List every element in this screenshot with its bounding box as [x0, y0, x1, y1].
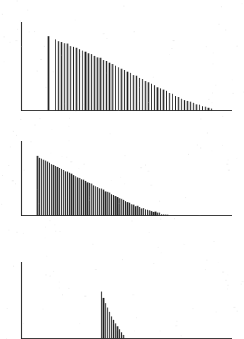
speckle-dot [236, 158, 237, 159]
speckle-dot [49, 220, 50, 221]
speckle-dot [171, 48, 172, 49]
speckle-dot [205, 269, 206, 270]
speckle-dot [40, 59, 42, 60]
speckle-dot [78, 168, 79, 169]
speckle-dot [8, 165, 9, 166]
speckle-dot [116, 330, 117, 331]
speckle-dot [8, 230, 9, 231]
speckle-dot [84, 164, 85, 165]
speckle-dot [207, 133, 208, 134]
speckle-dot [59, 282, 60, 283]
speckle-dot [226, 164, 228, 165]
speckle-dot [69, 140, 70, 141]
speckle-dot [132, 221, 133, 222]
speckle-dot [222, 116, 223, 117]
speckle-dot [13, 266, 14, 267]
panel-3 [21, 262, 232, 339]
speckle-dot [1, 204, 2, 205]
speckle-dot [20, 20, 21, 21]
speckle-dot [4, 36, 5, 37]
speckle-dot [61, 55, 62, 56]
speckle-dot [213, 63, 214, 64]
speckle-dot [147, 171, 149, 172]
speckle-dot [181, 335, 182, 336]
stick-group [49, 36, 212, 110]
speckle-dot [21, 46, 22, 47]
speckle-dot [70, 161, 72, 162]
speckle-dot [149, 232, 150, 233]
speckle-dot [222, 145, 223, 146]
speckle-dot [140, 167, 142, 168]
speckle-dot [46, 256, 47, 257]
speckle-dot [53, 271, 54, 272]
speckle-dot [2, 175, 3, 176]
speckle-dot [23, 233, 24, 234]
speckle-dot [160, 331, 161, 332]
speckle-dot [10, 42, 11, 43]
speckle-dot [51, 129, 52, 130]
speckle-dot [225, 30, 226, 31]
speckle-dot [50, 153, 51, 154]
speckle-dot [134, 31, 135, 32]
speckle-dot [212, 102, 213, 103]
speckle-dot [206, 46, 207, 47]
speckle-dot [89, 200, 90, 201]
speckle-dot [139, 101, 140, 102]
speckle-dot [27, 10, 28, 11]
speckle-dot [106, 38, 107, 39]
speckle-dot [20, 119, 21, 120]
stick-group [38, 156, 168, 216]
speckle-dot [29, 31, 30, 32]
speckle-dot [68, 288, 69, 289]
speckle-dot [15, 40, 17, 41]
speckle-dot [132, 294, 134, 295]
speckle-dot [110, 105, 111, 106]
speckle-dot [55, 231, 56, 232]
speckle-dot [120, 177, 121, 178]
speckle-dot [78, 52, 80, 53]
speckle-dot [200, 119, 201, 120]
speckle-dot [44, 46, 45, 47]
speckle-dot [60, 176, 61, 177]
speckle-dot [222, 272, 224, 273]
stick-spectra-figure [0, 0, 244, 339]
speckle-dot [66, 157, 67, 158]
speckle-dot [45, 227, 46, 228]
speckle-dot [175, 325, 177, 326]
speckle-dot [4, 61, 5, 62]
speckle-dot [10, 146, 11, 147]
speckle-dot [118, 110, 119, 111]
speckle-dot [161, 252, 162, 253]
speckle-dot [43, 309, 44, 310]
speckle-dot [103, 33, 105, 34]
speckle-dot [197, 145, 198, 146]
spectra-canvas [0, 0, 244, 339]
speckle-dot [114, 323, 115, 324]
speckle-dot [46, 274, 47, 275]
speckle-dot [75, 111, 76, 112]
speckle-dot [36, 189, 37, 190]
speckle-dot [50, 276, 51, 277]
speckle-dot [211, 150, 212, 151]
speckle-dot [92, 244, 93, 245]
speckle-dot [77, 101, 78, 102]
speckle-dot [136, 317, 137, 318]
speckle-dot [212, 93, 213, 94]
speckle-dot [47, 76, 48, 77]
speckle-dot [64, 103, 65, 104]
speckle-dot [38, 203, 39, 204]
speckle-dot [124, 183, 125, 184]
speckle-dot [228, 285, 229, 286]
speckle-dot [226, 280, 227, 281]
speckle-dot [216, 312, 217, 313]
speckle-dot [160, 219, 161, 220]
speckle-dot [233, 93, 234, 94]
speckle-dot [188, 154, 189, 155]
speckle-dot [158, 247, 159, 248]
speckle-dot [123, 6, 124, 7]
speckle-dot [2, 14, 3, 15]
speckle-dot [16, 135, 17, 136]
speckle-dot [242, 3, 243, 4]
speckle-dot [31, 141, 32, 142]
speckle-dot [119, 203, 120, 204]
